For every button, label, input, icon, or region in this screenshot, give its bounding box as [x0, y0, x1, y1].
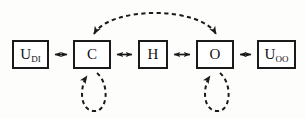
connector-o-self-loop [205, 73, 229, 111]
node-c-label: C [87, 47, 97, 62]
connector-c-self-loop [82, 73, 106, 111]
node-u-di[interactable]: UDI [12, 40, 49, 69]
node-o[interactable]: O [196, 40, 234, 69]
node-h-label: H [147, 47, 158, 62]
node-u-oo-label: UOO [264, 47, 288, 62]
node-h[interactable]: H [138, 40, 168, 69]
node-u-di-label: UDI [20, 47, 41, 62]
node-c[interactable]: C [73, 40, 111, 69]
connector-c-o-arc [94, 13, 216, 34]
node-o-label: O [209, 47, 220, 62]
node-u-oo[interactable]: UOO [257, 40, 296, 69]
diagram-canvas: UDI C H O UOO [0, 0, 306, 118]
